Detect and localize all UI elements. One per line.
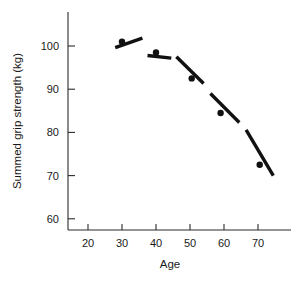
chart-figure: 10090807060 203040506070 Age Summed grip… bbox=[0, 0, 302, 287]
x-axis-ticks bbox=[88, 224, 258, 230]
x-tick-label: 60 bbox=[218, 237, 230, 249]
data-point bbox=[153, 49, 159, 55]
data-point bbox=[119, 38, 125, 44]
y-axis-title: Summed grip strength (kg) bbox=[11, 53, 23, 189]
x-tick-label: 20 bbox=[82, 237, 94, 249]
x-tick-label: 50 bbox=[184, 237, 196, 249]
y-axis-ticks bbox=[68, 46, 75, 219]
data-point bbox=[217, 110, 223, 116]
y-tick-label: 70 bbox=[47, 170, 59, 182]
x-tick-label: 70 bbox=[252, 237, 264, 249]
x-tick-label: 40 bbox=[150, 237, 162, 249]
trend-segment bbox=[210, 94, 239, 123]
x-tick-label: 30 bbox=[116, 237, 128, 249]
y-axis-tick-labels: 10090807060 bbox=[41, 40, 59, 225]
data-point bbox=[257, 162, 263, 168]
trend-segment bbox=[246, 130, 273, 176]
y-tick-label: 100 bbox=[41, 40, 59, 52]
y-tick-label: 60 bbox=[47, 213, 59, 225]
trend-line-segments bbox=[115, 38, 273, 175]
x-axis-tick-labels: 203040506070 bbox=[82, 237, 264, 249]
y-tick-label: 90 bbox=[47, 83, 59, 95]
data-point bbox=[189, 75, 195, 81]
y-tick-label: 80 bbox=[47, 126, 59, 138]
grip-strength-scatter-chart: 10090807060 203040506070 Age Summed grip… bbox=[0, 0, 302, 287]
trend-segment bbox=[148, 56, 172, 59]
x-axis-title: Age bbox=[160, 258, 180, 270]
data-point-markers bbox=[119, 38, 263, 168]
